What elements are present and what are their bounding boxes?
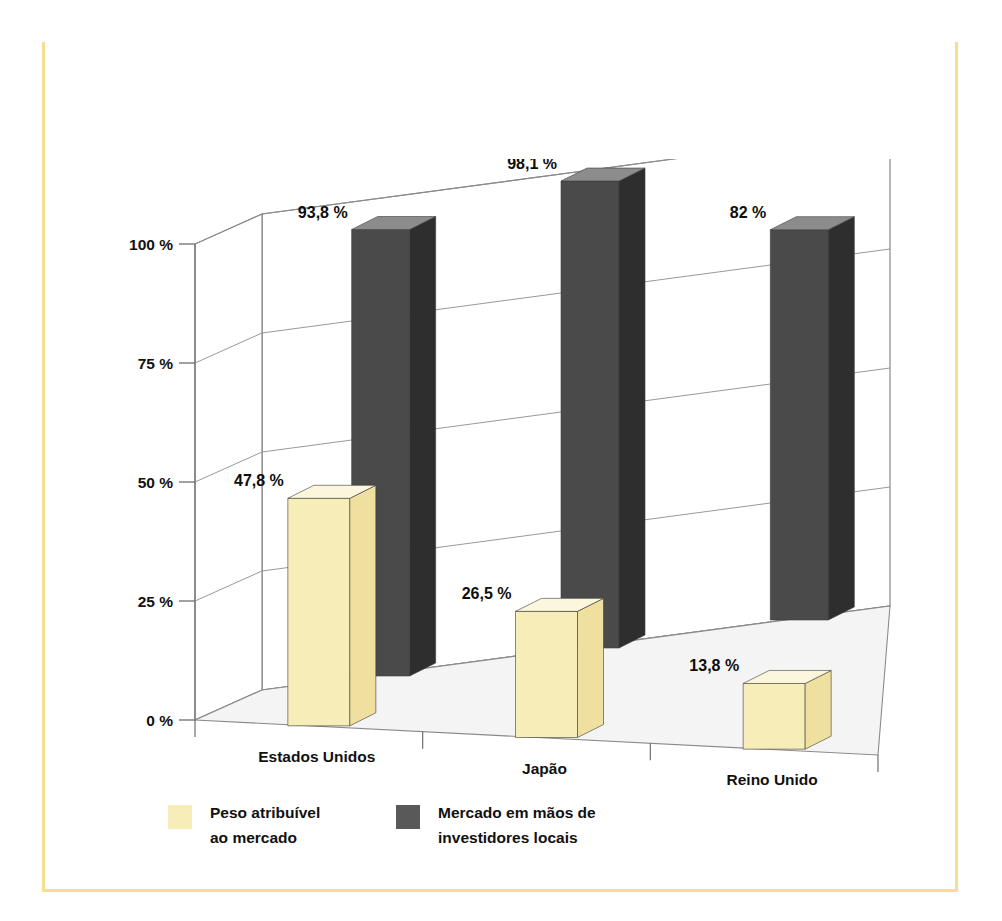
bar-front-1 — [516, 598, 604, 737]
bar-front-0 — [288, 485, 376, 726]
bar-front-2 — [743, 670, 831, 749]
bar-side-face — [828, 217, 854, 620]
bar-front-face — [288, 498, 350, 726]
bar-chart-3d: 0 %25 %50 %75 %100 % 93,8 %98,1 %82 %47,… — [42, 159, 958, 892]
y-axis-tick-label: 50 % — [138, 474, 174, 491]
bar-side-face — [805, 670, 831, 749]
bar-side-face — [619, 168, 645, 648]
legend-label-line1-0: Peso atribuível — [210, 804, 320, 821]
legend-item-0[interactable]: Peso atribuívelao mercado — [168, 804, 320, 846]
y-axis: 0 %25 %50 %75 %100 % — [129, 236, 195, 729]
y-axis-tick-label: 100 % — [129, 236, 173, 253]
bar-value-label-back-2: 82 % — [730, 204, 766, 221]
bar-side-face — [578, 598, 604, 737]
bar-value-label-front-2: 13,8 % — [689, 657, 739, 674]
x-axis-category-label-2: Reino Unido — [727, 771, 818, 788]
legend-label-line2-1: investidores locais — [438, 829, 578, 846]
bar-side-face — [350, 485, 376, 726]
bar-side-face — [410, 217, 436, 676]
legend-swatch-1 — [396, 805, 420, 829]
bar-value-label-back-1: 98,1 % — [507, 159, 557, 172]
chart-legend: Peso atribuívelao mercadoMercado em mãos… — [168, 804, 596, 846]
bar-back-2 — [770, 217, 854, 620]
y-axis-tick-label: 75 % — [138, 355, 174, 372]
legend-item-1[interactable]: Mercado em mãos deinvestidores locais — [396, 804, 596, 846]
bar-back-1 — [561, 168, 645, 648]
bar-front-face — [770, 230, 828, 620]
x-axis-category-label-1: Japão — [522, 760, 567, 777]
bar-front-face — [516, 611, 578, 737]
x-axis-category-label-0: Estados Unidos — [258, 748, 375, 765]
legend-label-line1-1: Mercado em mãos de — [438, 804, 596, 821]
bar-value-label-front-0: 47,8 % — [234, 472, 284, 489]
chart-plot-area: 0 %25 %50 %75 %100 % 93,8 %98,1 %82 %47,… — [42, 159, 958, 892]
bar-value-label-front-1: 26,5 % — [462, 585, 512, 602]
bar-front-face — [561, 181, 619, 648]
legend-swatch-0 — [168, 805, 192, 829]
bar-front-face — [743, 683, 805, 749]
bar-value-label-back-0: 93,8 % — [298, 204, 348, 221]
legend-label-line2-0: ao mercado — [210, 829, 297, 846]
y-axis-tick-label: 25 % — [138, 593, 174, 610]
y-axis-tick-label: 0 % — [146, 712, 173, 729]
